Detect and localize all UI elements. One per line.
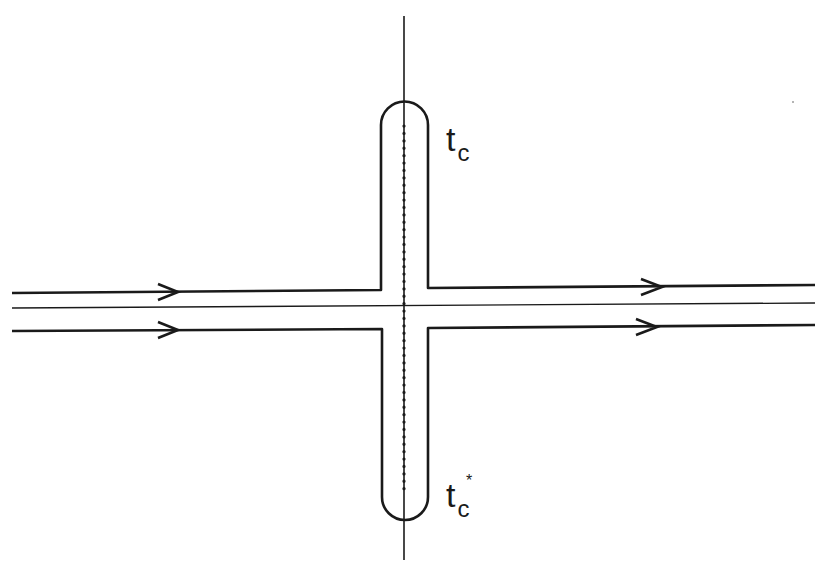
speck [792,101,794,103]
label-tc-base: t [446,120,455,158]
diagram-svg [0,0,827,567]
label-tc-star-superscript: * [466,472,472,490]
upper-contour [12,101,815,293]
label-tc-star-subscript: c [457,495,469,522]
label-tc-star: tc * [446,478,469,513]
contour-diagram: tc tc * [0,0,827,567]
label-tc-star-base: t [446,476,455,514]
horizontal-axis [12,303,815,308]
label-tc: tc [446,122,469,157]
lower-contour [12,325,815,520]
label-tc-subscript: c [457,139,469,166]
